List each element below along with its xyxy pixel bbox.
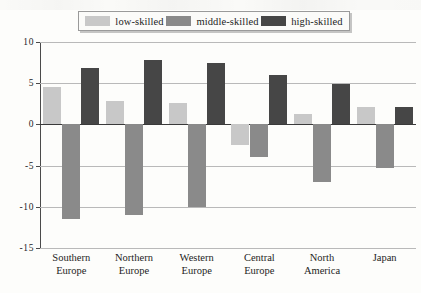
x-axis-label-line: Europe <box>103 265 166 278</box>
legend-swatch-icon-low-skilled <box>85 16 110 26</box>
chart-legend: low-skilled middle-skilled high-skilled <box>78 11 350 31</box>
x-axis-label: NorthernEurope <box>103 252 166 277</box>
bar-group <box>165 42 228 248</box>
x-axis-label-line: Southern <box>40 252 103 265</box>
y-axis-tick-label: 0 <box>29 119 34 129</box>
y-axis-tick-label: -10 <box>20 202 34 212</box>
bar-middle-skilled <box>250 124 268 157</box>
x-axis-label-line: Western <box>165 252 228 265</box>
bar-high-skilled <box>207 63 225 124</box>
bar-high-skilled <box>269 75 287 124</box>
x-axis-label: SouthernEurope <box>40 252 103 277</box>
bar-low-skilled <box>294 114 312 125</box>
bar-low-skilled <box>106 101 124 124</box>
bar-group <box>228 42 291 248</box>
bar-groups <box>40 42 416 248</box>
legend-item-low-skilled: low-skilled <box>85 16 163 27</box>
x-axis-label-line: Europe <box>228 265 291 278</box>
x-axis-label-line: Japan <box>353 252 416 265</box>
x-axis-label-line: North <box>291 252 354 265</box>
legend-label-low-skilled: low-skilled <box>115 16 163 27</box>
x-axis-label-line: Europe <box>165 265 228 278</box>
bar-middle-skilled <box>188 124 206 206</box>
x-axis-label: Japan <box>353 252 416 265</box>
chart-plot-area: 1050-5-10-15 <box>40 42 416 248</box>
bar-middle-skilled <box>313 124 331 182</box>
bar-group <box>40 42 103 248</box>
bar-group <box>103 42 166 248</box>
bar-group <box>353 42 416 248</box>
legend-swatch-icon-high-skilled <box>261 16 286 26</box>
gridline <box>40 248 416 249</box>
x-axis-label-line: Central <box>228 252 291 265</box>
legend-swatch-icon-middle-skilled <box>166 16 191 26</box>
y-axis-tick-label: 10 <box>23 37 34 47</box>
bar-middle-skilled <box>125 124 143 215</box>
bar-middle-skilled <box>62 124 80 219</box>
legend-label-high-skilled: high-skilled <box>291 16 342 27</box>
bar-low-skilled <box>43 87 61 124</box>
x-axis-label: CentralEurope <box>228 252 291 277</box>
x-axis-label-line: Northern <box>103 252 166 265</box>
bar-high-skilled <box>144 60 162 124</box>
y-axis-tick-label: -5 <box>25 161 34 171</box>
bar-middle-skilled <box>376 124 394 168</box>
x-axis-label-line: Europe <box>40 265 103 278</box>
bar-high-skilled <box>81 68 99 124</box>
x-axis-label-line: America <box>291 265 354 278</box>
y-axis-tick <box>36 248 40 249</box>
x-axis-labels: SouthernEuropeNorthernEuropeWesternEurop… <box>40 252 416 288</box>
legend-label-middle-skilled: middle-skilled <box>196 16 258 27</box>
bar-high-skilled <box>332 84 350 124</box>
legend-item-high-skilled: high-skilled <box>261 16 342 27</box>
bar-group <box>291 42 354 248</box>
bar-low-skilled <box>169 103 187 124</box>
scan-artifact-strip <box>0 0 421 10</box>
bar-low-skilled <box>357 107 375 124</box>
legend-item-middle-skilled: middle-skilled <box>166 16 258 27</box>
bar-low-skilled <box>231 124 249 145</box>
y-axis-tick-label: -15 <box>20 243 34 253</box>
bar-high-skilled <box>395 107 413 124</box>
y-axis-tick-label: 5 <box>29 78 34 88</box>
x-axis-label: WesternEurope <box>165 252 228 277</box>
x-axis-label: NorthAmerica <box>291 252 354 277</box>
